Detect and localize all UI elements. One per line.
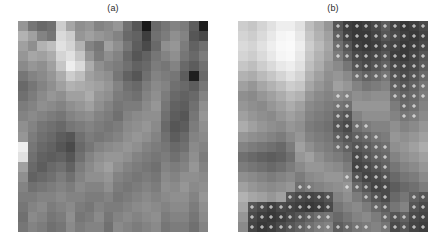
heatmap-cell-marker [381,51,391,61]
heatmap-cell [305,41,315,51]
heatmap-cell-marker [409,51,419,61]
heatmap-cell-marker [276,212,286,222]
heatmap-cell [276,182,286,192]
heatmap-cell-marker [295,222,305,232]
heatmap-cell-marker [409,101,419,111]
heatmap-cell-marker [409,41,419,51]
heatmap-cell [390,202,400,212]
heatmap-cell-marker [352,152,362,162]
heatmap-cell-marker [381,222,391,232]
heatmap-cell-marker [352,71,362,81]
heatmap-cell-marker [333,222,343,232]
heatmap-cell [333,182,343,192]
heatmap-cell [409,142,419,152]
heatmap-cell-marker [400,81,410,91]
heatmap-cell-marker [295,192,305,202]
heatmap-cell-marker [390,21,400,31]
heatmap-cell-marker [400,212,410,222]
heatmap-cell [333,152,343,162]
heatmap-cell [267,142,277,152]
heatmap-cell [257,192,267,202]
heatmap-cell-marker [362,31,372,41]
heatmap-cell-marker [371,51,381,61]
heatmap-cell [238,101,248,111]
heatmap-cell-marker [305,212,315,222]
heatmap-cell [238,31,248,41]
heatmap-cell [276,162,286,172]
heatmap-cell [276,21,286,31]
heatmap-cell [371,111,381,121]
heatmap-cell [238,71,248,81]
heatmap-cell-marker [324,212,334,222]
heatmap-cell [324,101,334,111]
heatmap-cell [257,101,267,111]
heatmap-cell-marker [381,31,391,41]
heatmap-cell [248,81,258,91]
heatmap-cell-marker [390,222,400,232]
heatmap-cell-marker [333,91,343,101]
heatmap-cell [305,152,315,162]
heatmap-cell-marker [409,111,419,121]
heatmap-cell [238,162,248,172]
heatmap-cell-marker [305,192,315,202]
heatmap-cell [267,172,277,182]
heatmap-cell-marker [390,31,400,41]
heatmap-cell [305,71,315,81]
heatmap-cell [276,132,286,142]
heatmap-cell-marker [276,222,286,232]
heatmap-cell [276,142,286,152]
heatmap-cell-marker [343,121,353,131]
heatmap-cell [390,101,400,111]
heatmap-cell [257,21,267,31]
heatmap-cell [295,81,305,91]
heatmap-cell [390,172,400,182]
heatmap-cell [371,101,381,111]
heatmap-cell-marker [400,31,410,41]
heatmap-cell [276,172,286,182]
heatmap-cell [324,111,334,121]
heatmap-cell [248,192,258,202]
heatmap-cell-marker [400,61,410,71]
heatmap-cell-marker [362,41,372,51]
heatmap-cell [324,142,334,152]
heatmap-cell [343,61,353,71]
heatmap-cell-marker [267,202,277,212]
heatmap-cell [314,182,324,192]
heatmap-cell [314,121,324,131]
heatmap-cell [286,81,296,91]
heatmap-cell-marker [276,202,286,212]
heatmap-cell [419,142,429,152]
heatmap-cell [333,61,343,71]
heatmap-cell [305,31,315,41]
heatmap-cell-marker [333,41,343,51]
heatmap-cell-marker [390,61,400,71]
heatmap-cell [324,51,334,61]
heatmap-cell [238,212,248,222]
heatmap-cell [248,111,258,121]
heatmap-cell-marker [419,41,429,51]
heatmap-cell-marker [381,152,391,162]
heatmap-cell [314,101,324,111]
heatmap-cell [295,31,305,41]
heatmap-cell [295,111,305,121]
heatmap-cell [257,41,267,51]
heatmap-cell-marker [419,61,429,71]
heatmap-cell [295,71,305,81]
heatmap-cell [305,81,315,91]
heatmap-cell [390,152,400,162]
heatmap-cell [305,162,315,172]
heatmap-cell-marker [333,51,343,61]
heatmap-cell-marker [409,61,419,71]
heatmap-cell-marker [371,172,381,182]
heatmap-cell [276,71,286,81]
heatmap-cell-marker [343,91,353,101]
heatmap-cell [333,192,343,202]
heatmap-cell [352,81,362,91]
heatmap-cell [276,81,286,91]
heatmap-cell-marker [352,162,362,172]
heatmap-cell [324,81,334,91]
heatmap-cell-marker [352,51,362,61]
heatmap-cell-marker [362,162,372,172]
heatmap-cell [352,202,362,212]
heatmap-cell [238,91,248,101]
